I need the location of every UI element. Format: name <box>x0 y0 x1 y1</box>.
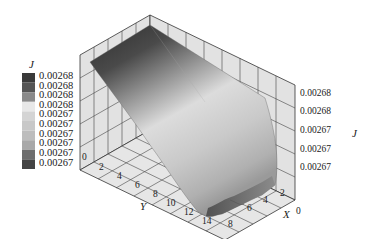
svg-text:2: 2 <box>280 188 285 198</box>
svg-text:4: 4 <box>263 195 268 205</box>
svg-text:8: 8 <box>153 189 158 199</box>
svg-text:0: 0 <box>296 206 301 216</box>
svg-text:0.00268: 0.00268 <box>300 106 331 116</box>
z-axis-label: J <box>352 127 358 139</box>
svg-text:0.00267: 0.00267 <box>300 162 331 172</box>
svg-text:0: 0 <box>82 152 87 162</box>
svg-text:0.00267: 0.00267 <box>39 157 73 168</box>
legend-title: J <box>29 58 35 70</box>
svg-text:0.00267: 0.00267 <box>300 144 331 154</box>
svg-text:0.00268: 0.00268 <box>300 88 331 98</box>
svg-text:10: 10 <box>166 198 176 208</box>
svg-text:14: 14 <box>202 216 212 226</box>
surface-plot: 0.00268 0.00268 0.00267 0.00267 0.00267 … <box>0 0 372 239</box>
z-axis-ticks: 0.00268 0.00268 0.00267 0.00267 0.00267 … <box>300 88 358 172</box>
svg-text:6: 6 <box>135 180 140 190</box>
svg-text:12: 12 <box>184 207 194 217</box>
svg-text:4: 4 <box>117 171 122 181</box>
svg-text:6: 6 <box>247 203 252 213</box>
x-axis-label: X <box>282 208 291 220</box>
colorbar-legend: J 0.00268 0.00268 0.00268 0.00268 0.0026… <box>22 58 73 169</box>
svg-text:8: 8 <box>228 219 233 229</box>
svg-text:2: 2 <box>99 162 104 172</box>
svg-text:0.00267: 0.00267 <box>300 125 331 135</box>
